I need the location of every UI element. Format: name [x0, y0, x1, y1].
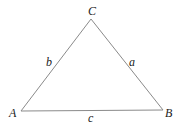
side-b-label: b: [46, 55, 52, 69]
side-c-label: c: [88, 111, 94, 125]
triangle-diagram: C A B b a c: [0, 0, 180, 129]
vertex-a-label: A: [8, 106, 17, 120]
side-a-line: [91, 19, 163, 110]
vertex-b-label: B: [165, 106, 173, 120]
side-b-line: [21, 19, 91, 111]
side-a-label: a: [129, 55, 135, 69]
vertex-c-label: C: [88, 4, 97, 18]
